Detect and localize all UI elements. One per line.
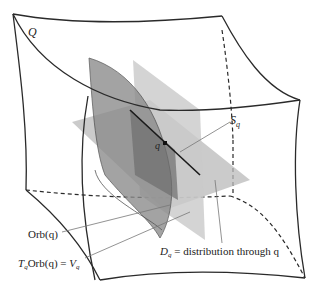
orbit-label: Orb(q) bbox=[28, 228, 58, 241]
manifold-label: Q bbox=[28, 25, 37, 39]
point-label: q bbox=[155, 140, 160, 151]
point-q bbox=[163, 141, 167, 145]
tangent-space-label: TqOrb(q) = Vq bbox=[18, 257, 80, 271]
slice-label: Sq bbox=[230, 113, 240, 129]
orbit-slice-diagram: Q q Sq Orb(q) TqOrb(q) = Vq Dq = distrib… bbox=[0, 0, 318, 292]
distribution-label: Dq = distribution through q bbox=[159, 245, 280, 259]
